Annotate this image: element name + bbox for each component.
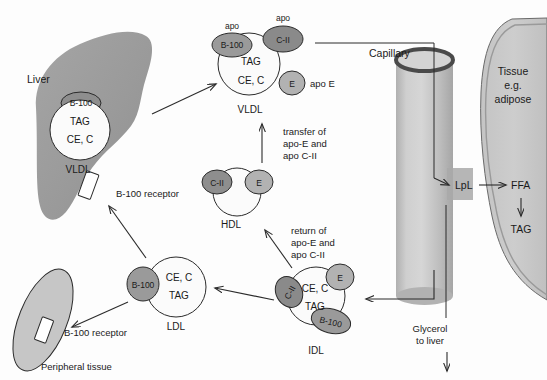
idl-particle: C-II E B-100 CE, C TAG IDL: [270, 264, 354, 356]
ffa-label: FFA: [511, 179, 530, 191]
peripheral-tissue-label: Peripheral tissue: [41, 361, 112, 372]
return-annotation-line3: apo C-II: [291, 249, 325, 260]
capillary-label: Capillary: [369, 47, 411, 59]
adipose-label-line3: adipose: [495, 93, 532, 105]
glycerol-label-line1: Glycerol: [413, 323, 448, 334]
lipoprotein-metabolism-diagram: Liver B-100 receptor B-100 TAG CE, C VLD…: [0, 0, 547, 380]
vldl-name: VLDL: [237, 104, 262, 115]
liver-vldl-core-tag: TAG: [70, 116, 90, 127]
vldl-apo-e-caption: apo E: [310, 78, 335, 89]
transfer-annotation-line3: apo C-II: [283, 150, 317, 161]
hdl-apo-c2-label: C-II: [210, 178, 224, 188]
ldl-apo-b100-label: B-100: [132, 280, 155, 290]
transfer-annotation-line1: transfer of: [283, 126, 326, 137]
arrow-ldl-to-peripheral: [72, 302, 128, 327]
hdl-name: HDL: [221, 219, 241, 230]
idl-core-cec: CE, C: [302, 283, 329, 294]
ldl-core-cec: CE, C: [166, 272, 193, 283]
return-annotation-line2: apo-E and: [291, 237, 335, 248]
vldl-apo-b100-label: B-100: [221, 40, 244, 50]
ldl-core-tag: TAG: [169, 290, 189, 301]
liver-vldl-name: VLDL: [65, 164, 90, 175]
liver-group: Liver B-100 receptor B-100 TAG CE, C VLD…: [27, 32, 179, 220]
ldl-name: LDL: [167, 321, 186, 332]
transfer-annotation-line2: apo-E and: [283, 138, 327, 149]
capillary-tube-bottom: [396, 287, 453, 305]
return-annotation-line1: return of: [291, 225, 327, 236]
adipose-label-line1: Tissue: [498, 65, 529, 77]
liver-vldl-apo-b100-label: B-100: [70, 98, 93, 108]
vldl-apo-c2-label: C-II: [276, 35, 290, 45]
vldl-apo-c2-caption: apo: [276, 13, 290, 23]
capillary-tube-body: [396, 58, 453, 296]
vldl-apo-e-label: E: [289, 79, 295, 89]
liver-vldl-core-cec: CE, C: [67, 134, 94, 145]
arrow-return-idl-to-hdl: [265, 230, 292, 268]
tissue-tag-label: TAG: [511, 223, 532, 235]
vldl-circulating-particle: apo B-100 apo C-II E apo E TAG CE, C VLD…: [212, 13, 335, 115]
liver-receptor-label: B-100 receptor: [116, 188, 179, 199]
vldl-apo-b100-caption: apo: [225, 21, 239, 31]
idl-name: IDL: [308, 345, 324, 356]
adipose-tissue-group: Tissue e.g. adipose FFA TAG: [479, 18, 547, 300]
vldl-core-tag: TAG: [241, 56, 261, 67]
arrow-liver-to-vldl: [152, 84, 216, 114]
hdl-apo-e-label: E: [256, 178, 262, 188]
peripheral-receptor-label-line1: B-100 receptor: [64, 327, 127, 338]
glycerol-label-line2: to liver: [416, 335, 444, 346]
lpl-label: LpL: [455, 179, 473, 191]
hdl-particle: C-II E HDL: [202, 168, 273, 230]
vldl-core-cec: CE, C: [238, 75, 265, 86]
adipose-label-line2: e.g.: [504, 79, 522, 91]
liver-label: Liver: [27, 73, 50, 85]
peripheral-tissue-group: B-100 receptor Peripheral tissue: [1, 261, 127, 379]
arrow-ldl-to-liver-receptor: [109, 206, 146, 258]
idl-core-tag: TAG: [305, 301, 325, 312]
diagram-canvas: Liver B-100 receptor B-100 TAG CE, C VLD…: [0, 0, 547, 380]
idl-apo-e-label: E: [337, 273, 343, 283]
liver-vldl-core: [50, 100, 110, 160]
ldl-particle: B-100 CE, C TAG LDL: [127, 257, 206, 332]
arrow-idl-to-ldl: [215, 288, 274, 300]
